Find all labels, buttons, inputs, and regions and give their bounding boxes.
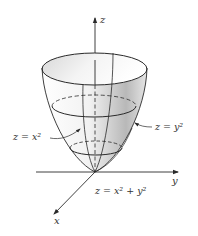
right-trace-label: z = y² [154,121,183,132]
left-trace-label: z = x² [12,131,41,142]
right-trace-pointer [135,123,152,127]
x-axis [54,172,95,214]
z-axis-label: z [99,14,106,25]
paraboloid-diagram: z y x z = x² z = y² z = x² + y² [0,0,198,236]
y-axis-label: y [171,175,178,186]
x-axis-label: x [54,215,60,226]
surface-equation-label: z = x² + y² [94,185,147,196]
